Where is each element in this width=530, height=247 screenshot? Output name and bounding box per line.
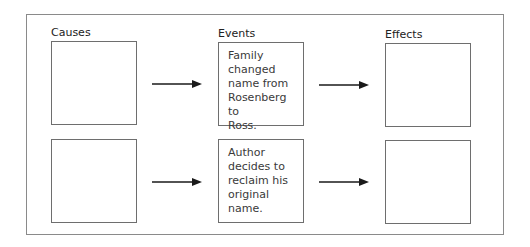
event-text-2: Author decides to reclaim his original n… xyxy=(228,146,299,216)
arrow-icon xyxy=(319,80,369,90)
effect-box-2[interactable] xyxy=(385,140,471,224)
effect-box-1[interactable] xyxy=(385,43,471,127)
cause-box-2[interactable] xyxy=(51,139,137,223)
event-box-2: Author decides to reclaim his original n… xyxy=(218,139,304,223)
causes-heading: Causes xyxy=(51,27,91,39)
event-box-1: Family changed name from Rosenberg to Ro… xyxy=(218,42,304,126)
arrow-icon xyxy=(319,177,369,187)
arrow-icon xyxy=(152,79,202,89)
arrow-icon xyxy=(152,177,202,187)
events-heading: Events xyxy=(218,28,255,40)
event-text-1: Family changed name from Rosenberg to Ro… xyxy=(228,49,299,133)
cause-box-1[interactable] xyxy=(51,41,137,125)
effects-heading: Effects xyxy=(385,29,422,41)
